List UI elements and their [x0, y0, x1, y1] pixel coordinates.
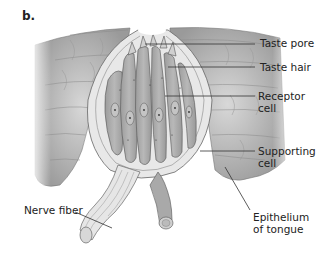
- label-epithelium: Epithelium of tongue: [253, 211, 309, 235]
- label-taste-pore: Taste pore: [260, 37, 314, 49]
- label-supporting-line2: cell: [258, 157, 316, 169]
- nerve-fiber: [80, 165, 173, 243]
- label-epithelium-line1: Epithelium: [253, 211, 309, 223]
- label-taste-hair: Taste hair: [260, 61, 311, 73]
- label-nerve-fiber: Nerve fiber: [24, 204, 83, 216]
- label-receptor-line2: cell: [258, 102, 305, 114]
- taste-pore: [138, 25, 166, 35]
- label-receptor-cell: Receptor cell: [258, 90, 305, 114]
- label-receptor-line1: Receptor: [258, 90, 305, 102]
- label-epithelium-line2: of tongue: [253, 223, 309, 235]
- label-supporting-line1: Supporting: [258, 145, 316, 157]
- label-supporting-cell: Supporting cell: [258, 145, 316, 169]
